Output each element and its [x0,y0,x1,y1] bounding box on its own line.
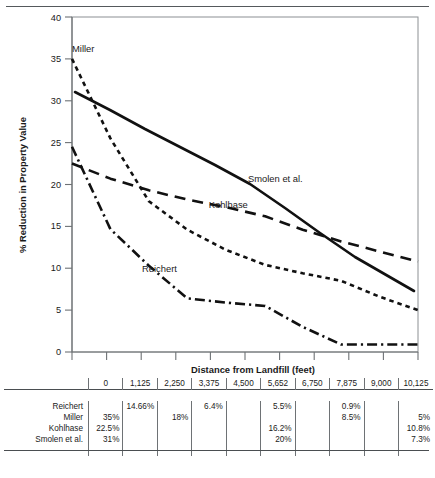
y-tick-label-40: 40 [51,13,61,23]
x-axis-ticks [72,352,418,360]
table-cell: 20% [261,434,295,445]
table-col-header: 6,750 [295,378,329,390]
y-axis-ticks [65,17,72,352]
table-col-header: 4,500 [226,378,260,390]
table-cell: 5.5% [261,401,295,412]
table-cell [123,434,157,445]
table-cell: 35% [89,412,123,423]
table-cell [226,434,260,445]
table-cell [157,423,191,434]
table-corner-cell [4,378,89,390]
table-cell [261,412,295,423]
table-header-row: 0 1,125 2,250 3,375 4,500 5,652 6,750 7,… [4,378,433,390]
table-col-header: 10,125 [398,378,433,390]
y-axis-tick-labels: 0 5 10 15 20 25 30 35 40 [51,13,61,358]
table-cell [364,412,398,423]
table-cell: 16.2% [261,423,295,434]
table-cell [192,412,226,423]
table-cell [123,412,157,423]
table-cell [398,401,433,412]
table-head-gap [4,390,433,402]
table-cell [192,423,226,434]
table-cell: 5% [398,412,433,423]
table-col-header: 2,250 [157,378,191,390]
table-col-header: 5,652 [261,378,295,390]
table-cell [295,412,329,423]
table-cell [364,423,398,434]
table-col-header: 0 [89,378,123,390]
table-cell: 14.66% [123,401,157,412]
table-cell [157,434,191,445]
y-tick-label-25: 25 [51,138,61,148]
table-row [4,390,433,402]
y-tick-label-20: 20 [51,180,61,190]
x-axis-title: Distance from Landfill (feet) [191,364,315,375]
data-table-body: Reichert 14.66% 6.4% 5.5% 0.9% Miller 35… [4,390,433,457]
y-tick-label-15: 15 [51,221,61,231]
table-cell: 18% [157,412,191,423]
table-row-label: Kohlhase [4,423,89,434]
table-cell: 7.3% [398,434,433,445]
y-tick-label-5: 5 [56,305,61,315]
data-table-head: 0 1,125 2,250 3,375 4,500 5,652 6,750 7,… [4,378,433,390]
y-tick-label-35: 35 [51,54,61,64]
table-cell: 10.8% [398,423,433,434]
table-cell: 22.5% [89,423,123,434]
table-row-label: Miller [4,412,89,423]
table-cell: 8.5% [330,412,364,423]
table-cell [157,401,191,412]
annotation-kohlhase: Kohlhase [209,199,248,210]
table-col-header: 1,125 [123,378,157,390]
table-row: Kohlhase 22.5% 16.2% 10.8% [4,423,433,434]
annotation-reichert: Reichert [142,263,177,274]
y-tick-label-10: 10 [51,263,61,273]
chart-canvas: 0 5 10 15 20 25 30 35 40 % Reduction in … [0,10,435,380]
annotation-smolen: Smolen et al. [248,173,303,184]
table-cell: 31% [89,434,123,445]
table-cell [330,423,364,434]
table-cell [192,434,226,445]
table-cell: 6.4% [192,401,226,412]
table-cell: 0.9% [330,401,364,412]
table-cell [123,423,157,434]
table-row-label: Reichert [4,401,89,412]
table-col-header: 7,875 [330,378,364,390]
table-cell [295,401,329,412]
line-chart: 0 5 10 15 20 25 30 35 40 % Reduction in … [0,10,435,380]
table-cell [226,423,260,434]
data-table: 0 1,125 2,250 3,375 4,500 5,652 6,750 7,… [4,378,433,456]
table-row: Reichert 14.66% 6.4% 5.5% 0.9% [4,401,433,412]
table-cell [364,434,398,445]
table-cell [295,423,329,434]
table-cell [330,434,364,445]
table-row: Smolen et al. 31% 20% 7.3% [4,434,433,445]
table-cell [364,401,398,412]
table-row: Miller 35% 18% 8.5% 5% [4,412,433,423]
table-cell [295,434,329,445]
y-axis-title: % Reduction in Property Value [17,117,28,253]
table-cell [89,401,123,412]
annotation-miller: Miller [72,43,94,54]
table-col-header: 3,375 [192,378,226,390]
top-divider-rule [6,6,429,7]
table-cell [226,401,260,412]
figure-root: 0 5 10 15 20 25 30 35 40 % Reduction in … [0,0,435,478]
plot-area-frame [72,17,418,352]
table-col-header: 9,000 [364,378,398,390]
y-tick-label-30: 30 [51,96,61,106]
table-row-label: Smolen et al. [4,434,89,445]
y-tick-label-0: 0 [56,347,61,357]
table-bottom-rule [4,450,429,451]
data-table-wrap: 0 1,125 2,250 3,375 4,500 5,652 6,750 7,… [0,378,435,468]
table-cell [226,412,260,423]
